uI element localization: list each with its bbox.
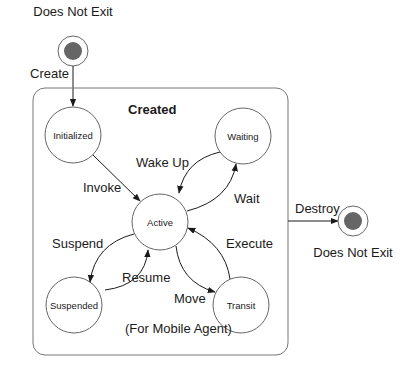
execute-transition [188,228,230,279]
move-label: Move [174,291,206,306]
wakeup-label: Wake Up [136,155,189,170]
resume-label: Resume [122,270,170,285]
initial-state-label: Does Not Exit [33,4,113,19]
state-active: Active [132,194,188,250]
destroy-label: Destroy [295,201,340,216]
state-initialized: Initialized [45,107,101,163]
invoke-label: Invoke [83,180,121,195]
create-label: Create [30,66,69,81]
move-transition [176,246,215,292]
state-label: Initialized [53,130,93,141]
container-label: Created [128,102,176,117]
initial-state-dot [64,42,82,60]
container-note: (For Mobile Agent) [125,321,232,336]
state-suspended: Suspended [46,277,102,333]
state-label: Active [147,217,173,228]
state-diagram: Does Not Exit Create Created Initialized… [0,0,410,369]
suspend-label: Suspend [52,236,103,251]
state-waiting: Waiting [215,108,271,164]
state-label: Transit [227,300,256,311]
initial-state: Does Not Exit [33,4,113,66]
state-label: Suspended [50,300,98,311]
wait-label: Wait [234,191,260,206]
execute-label: Execute [226,236,273,251]
state-label: Waiting [227,131,258,142]
final-state-label: Does Not Exit [313,245,393,260]
wait-transition [187,164,236,211]
final-state-dot [344,212,362,230]
